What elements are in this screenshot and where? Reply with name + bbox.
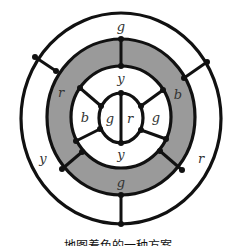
label-center-right: r [127, 111, 134, 126]
label-outer-right: r [198, 151, 205, 166]
label-gray-left: r [58, 85, 65, 100]
label-inner-right: g [152, 110, 160, 125]
label-gray-right: b [174, 87, 182, 102]
label-center-left: g [106, 111, 114, 126]
label-inner-top: y [116, 71, 125, 86]
label-gray-bottom: g [117, 175, 125, 190]
label-outer-left: y [38, 151, 47, 166]
label-inner-bottom: y [116, 147, 125, 162]
figure-caption: 地图着色的一种方案 [0, 236, 235, 246]
ring-map-diagram: g y r r b g y b g y g r [0, 0, 235, 246]
label-outer-top: g [117, 19, 125, 34]
label-inner-left: b [81, 110, 89, 125]
